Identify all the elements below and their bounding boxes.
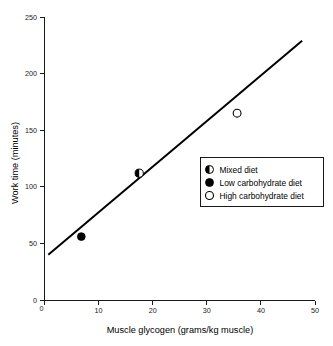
legend-item-low-carbohydrate-diet: Low carbohydrate diet xyxy=(206,178,303,188)
y-axis-title: Work time (minutes) xyxy=(10,122,20,204)
data-point-high-carbohydrate-diet xyxy=(233,109,241,117)
legend-item-high-carbohydrate-diet: High carbohydrate diet xyxy=(206,191,305,201)
x-tick-label-40: 40 xyxy=(257,306,265,315)
y-tick-label-200: 200 xyxy=(25,69,37,78)
x-tick-label-30: 30 xyxy=(203,306,211,315)
legend-label-high-carbohydrate-diet: High carbohydrate diet xyxy=(220,191,305,201)
x-tick-label-10: 10 xyxy=(95,306,103,315)
y-tick-label-150: 150 xyxy=(25,126,37,135)
x-tick-label-0: 0 xyxy=(40,304,44,313)
y-tick-label-100: 100 xyxy=(25,182,37,191)
y-tick-label-50: 50 xyxy=(29,239,37,248)
y-tick-label-250: 250 xyxy=(25,13,37,22)
legend-label-low-carbohydrate-diet: Low carbohydrate diet xyxy=(220,178,303,188)
legend-label-mixed-diet: Mixed diet xyxy=(220,165,259,175)
scatter-plot: 250 200 150 100 50 0 0 10 20 30 40 50 Mu… xyxy=(0,0,333,346)
y-tick-label-0: 0 xyxy=(33,296,37,305)
x-tick-label-20: 20 xyxy=(149,306,157,315)
legend: Mixed diet Low carbohydrate diet High ca… xyxy=(201,158,324,207)
data-point-low-carbohydrate-diet xyxy=(77,233,85,241)
chart-figure: 250 200 150 100 50 0 0 10 20 30 40 50 Mu… xyxy=(0,0,333,346)
half-filled-circle-icon xyxy=(206,166,214,174)
filled-circle-icon xyxy=(206,179,214,187)
data-point-mixed-diet xyxy=(135,169,143,177)
open-circle-icon xyxy=(206,192,214,200)
x-axis-title: Muscle glycogen (grams/kg muscle) xyxy=(107,325,254,335)
x-tick-label-50: 50 xyxy=(311,306,319,315)
